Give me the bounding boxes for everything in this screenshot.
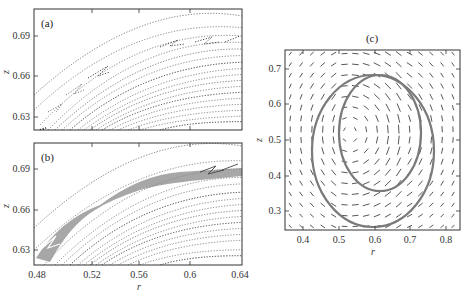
panel-c-xtick-0.8: 0.8 — [440, 234, 453, 245]
velocity-arrow — [376, 148, 379, 154]
velocity-arrow — [376, 115, 379, 121]
velocity-arrow — [321, 84, 325, 89]
velocity-arrow — [452, 105, 453, 109]
velocity-arrow — [441, 181, 444, 185]
panel-c-xlabel: r — [371, 246, 375, 257]
velocity-arrow — [430, 73, 433, 77]
velocity-arrow — [342, 172, 347, 173]
velocity-arrow — [396, 52, 401, 56]
velocity-arrow — [398, 115, 400, 123]
velocity-arrow — [375, 94, 380, 99]
velocity-arrow — [441, 192, 444, 196]
velocity-arrow — [289, 203, 291, 206]
velocity-arrow — [353, 150, 357, 152]
velocity-arrow — [377, 126, 378, 132]
velocity-arrow — [321, 170, 324, 175]
panel-a-ytick-0.66: 0.66 — [13, 70, 31, 81]
velocity-arrow — [353, 107, 358, 108]
velocity-arrow — [331, 73, 336, 77]
velocity-arrow — [353, 172, 359, 173]
velocity-arrow — [322, 115, 323, 121]
velocity-arrow — [342, 75, 348, 76]
velocity-arrow — [441, 159, 443, 164]
velocity-arrow — [430, 181, 433, 185]
velocity-arrow — [441, 203, 444, 206]
velocity-arrow — [344, 128, 346, 131]
velocity-arrow — [430, 94, 433, 99]
panel-c-xtick-0.6: 0.6 — [369, 234, 382, 245]
velocity-arrow — [452, 203, 454, 206]
panel-b: (b) 0.69 0.66 0.63 z 0.48 0.52 0.56 0.6 … — [0, 143, 260, 292]
panel-a-ytick-0.69: 0.69 — [13, 30, 31, 41]
panel-b-xtick-0.6: 0.6 — [184, 269, 197, 280]
velocity-arrow — [441, 73, 444, 77]
velocity-arrow — [333, 115, 335, 121]
velocity-arrow — [352, 75, 358, 76]
velocity-arrow — [441, 52, 444, 55]
panel-c-trajectories — [312, 75, 434, 227]
panel-b-ytick-0.63: 0.63 — [13, 244, 31, 255]
velocity-arrow — [300, 95, 302, 100]
velocity-arrow — [397, 93, 401, 100]
velocity-arrow — [290, 105, 291, 109]
velocity-arrow — [352, 194, 358, 195]
velocity-arrow — [408, 159, 411, 164]
velocity-arrow — [386, 104, 390, 111]
velocity-arrow — [430, 63, 433, 66]
velocity-arrow — [331, 192, 336, 196]
velocity-arrow — [398, 136, 399, 144]
velocity-arrow — [452, 52, 454, 55]
velocity-arrow — [332, 170, 336, 175]
velocity-arrow — [387, 147, 390, 154]
velocity-arrow — [331, 52, 336, 55]
velocity-arrow — [332, 105, 335, 111]
velocity-arrow — [300, 52, 303, 55]
velocity-arrow — [419, 170, 422, 175]
velocity-arrow — [374, 192, 380, 195]
velocity-arrow — [310, 214, 313, 217]
velocity-arrow — [363, 85, 369, 88]
velocity-arrow — [363, 215, 369, 216]
velocity-arrow — [321, 73, 325, 77]
velocity-arrow — [407, 192, 412, 196]
velocity-arrow — [386, 94, 391, 100]
velocity-arrow — [374, 63, 380, 66]
velocity-arrow — [363, 193, 369, 195]
velocity-arrow — [289, 214, 291, 217]
velocity-arrow — [300, 181, 302, 185]
velocity-arrow — [385, 181, 390, 186]
velocity-arrow — [385, 63, 391, 67]
velocity-arrow — [430, 225, 433, 227]
panel-b-ytick-0.66: 0.66 — [13, 204, 31, 215]
panel-b-chaotic-band — [36, 164, 242, 262]
velocity-arrow — [300, 84, 302, 88]
velocity-arrow — [354, 139, 357, 142]
velocity-arrow — [353, 96, 359, 97]
velocity-arrow — [431, 148, 432, 154]
velocity-arrow — [311, 181, 314, 185]
panel-c-ylabel: z — [253, 138, 264, 143]
panel-a-poincare-points — [34, 13, 260, 130]
velocity-arrow — [353, 53, 359, 54]
panel-b-ylabel: z — [0, 204, 11, 209]
velocity-arrow — [364, 149, 368, 153]
velocity-arrow — [430, 214, 433, 217]
velocity-arrow — [452, 63, 454, 66]
velocity-arrow — [321, 52, 325, 55]
panel-a-ytick-0.63: 0.63 — [13, 111, 31, 122]
velocity-arrow — [398, 147, 400, 155]
velocity-arrow — [374, 215, 380, 217]
velocity-arrow — [300, 192, 303, 196]
velocity-arrow — [385, 192, 391, 196]
velocity-arrow — [364, 106, 368, 110]
velocity-arrow — [430, 203, 433, 206]
velocity-arrow — [300, 203, 303, 206]
velocity-arrow — [430, 52, 433, 55]
velocity-arrow — [331, 63, 336, 66]
velocity-arrow — [407, 181, 412, 185]
velocity-arrow — [419, 181, 423, 185]
panel-b-xtick-0.56: 0.56 — [130, 269, 148, 280]
velocity-arrow — [343, 118, 347, 119]
panel-c-ytick-0.5: 0.5 — [269, 134, 282, 145]
velocity-arrow — [419, 73, 423, 77]
